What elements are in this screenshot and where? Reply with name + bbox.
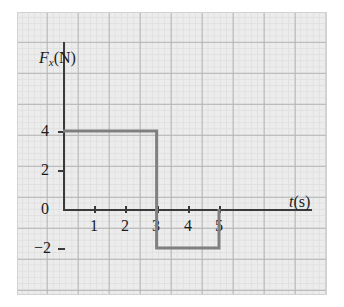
force-step-curve (17, 12, 327, 295)
force-vs-time-figure: 4 2 0 −2 1 2 3 4 5 Fx(N) t(s) (0, 0, 344, 307)
force-step-polyline (63, 131, 219, 248)
plot-panel: 4 2 0 −2 1 2 3 4 5 Fx(N) t(s) (17, 12, 327, 295)
